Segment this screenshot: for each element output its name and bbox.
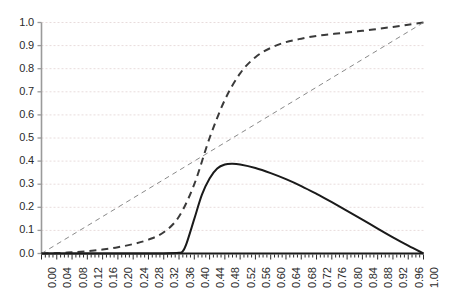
x-axis-tick-label: 0.28: [153, 267, 165, 288]
x-axis-tick-label: 0.76: [336, 267, 348, 288]
x-axis-ticks-group: [42, 255, 424, 260]
x-axis-tick-label: 0.72: [321, 267, 333, 288]
x-axis-tick-label: 0.80: [352, 267, 364, 288]
y-axis-tick-label: 1.0: [0, 16, 34, 28]
x-axis-tick-label: 0.32: [168, 267, 180, 288]
series-solid-peak-curve: [42, 164, 424, 254]
x-axis-tick-label: 0.68: [306, 267, 318, 288]
y-axis-tick-label: 0.6: [0, 108, 34, 120]
x-axis-tick-label: 0.44: [214, 267, 226, 288]
x-axis-tick-label: 0.16: [107, 267, 119, 288]
y-axis-tick-label: 0.8: [0, 62, 34, 74]
y-axis-tick-label: 0.2: [0, 200, 34, 212]
x-axis-tick-label: 0.84: [367, 267, 379, 288]
y-axis-tick-label: 0.5: [0, 131, 34, 143]
x-axis-tick-label: 0.04: [61, 267, 73, 288]
y-axis-tick-label: 0.0: [0, 247, 34, 259]
y-axis-tick-label: 0.3: [0, 177, 34, 189]
x-axis-tick-label: 0.08: [77, 267, 89, 288]
x-axis-tick-label: 0.24: [138, 267, 150, 288]
x-axis-tick-label: 0.20: [122, 267, 134, 288]
x-axis-tick-label: 0.48: [229, 267, 241, 288]
x-axis-tick-label: 0.96: [413, 267, 425, 288]
y-axis-tick-label: 0.1: [0, 223, 34, 235]
x-axis-tick-label: 0.56: [260, 267, 272, 288]
y-axis-tick-label: 0.4: [0, 154, 34, 166]
x-axis-tick-label: 0.12: [92, 267, 104, 288]
x-axis-tick-label: 0.88: [382, 267, 394, 288]
x-axis-tick-label: 0.36: [184, 267, 196, 288]
chart-container: 0.00.10.20.30.40.50.60.70.80.91.0 0.000.…: [0, 0, 449, 298]
y-axis-tick-label: 0.7: [0, 85, 34, 97]
x-axis-tick-label: 0.52: [245, 267, 257, 288]
line-chart-plot: [0, 0, 449, 298]
x-axis-tick-label: 0.60: [275, 267, 287, 288]
x-axis-tick-label: 0.64: [290, 267, 302, 288]
y-axis-tick-label: 0.9: [0, 39, 34, 51]
x-axis-tick-label: 0.00: [46, 267, 58, 288]
x-axis-tick-label: 0.92: [397, 267, 409, 288]
x-axis-tick-label: 1.00: [428, 267, 440, 288]
x-axis-tick-label: 0.40: [199, 267, 211, 288]
